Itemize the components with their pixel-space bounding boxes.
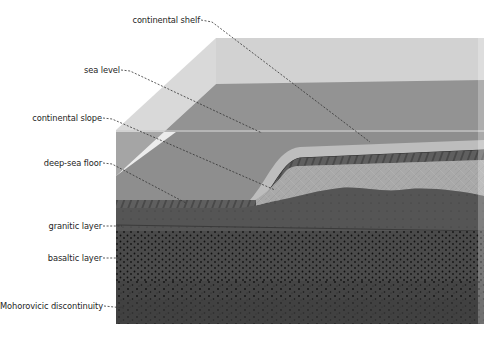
deep-sea-floor-band	[116, 200, 256, 208]
label-mohorovicic-discontinuity: Mohorovicic discontinuity	[0, 301, 103, 311]
right-edge	[478, 38, 484, 328]
back-wall	[216, 38, 484, 84]
diagram-svg	[0, 0, 484, 344]
moho-layer	[116, 300, 484, 324]
label-continental-slope: continental slope	[20, 113, 102, 123]
ocean-floor-diagram: continental shelf sea level continental …	[0, 0, 484, 344]
basaltic-layer	[116, 231, 484, 281]
label-continental-shelf: continental shelf	[105, 15, 200, 25]
label-sea-level: sea level	[60, 65, 120, 75]
label-deep-sea-floor: deep-sea floor	[20, 158, 102, 168]
label-basaltic-layer: basaltic layer	[20, 253, 102, 263]
label-granitic-layer: granitic layer	[20, 221, 102, 231]
